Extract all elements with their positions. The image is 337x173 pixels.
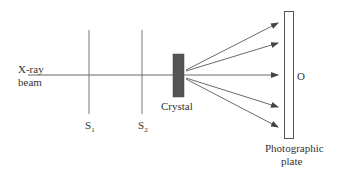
photographic-plate (285, 12, 294, 139)
slit2-label: S2 (138, 119, 148, 136)
plate-label-line1: Photographic (265, 142, 324, 154)
crystal (173, 54, 184, 97)
slit1-label: S1 (85, 119, 95, 136)
beam-label-line2: beam (18, 76, 42, 88)
crystal-label: Crystal (161, 100, 193, 112)
ray-2 (186, 43, 278, 71)
plate-label-line2: plate (281, 155, 302, 167)
slit1-subscript: 1 (91, 126, 95, 134)
ray-1 (186, 23, 278, 70)
beam-label-line1: X-ray (18, 63, 44, 75)
origin-label: O (297, 70, 305, 82)
slit2-subscript: 2 (144, 126, 148, 134)
